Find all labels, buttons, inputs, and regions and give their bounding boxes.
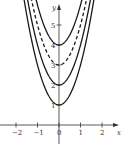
y-tick-label: 4 — [51, 42, 56, 50]
parabola-family-plot: −2−101212345 x y — [0, 0, 124, 144]
ticks: −2−101212345 — [12, 22, 104, 138]
x-axis-label: x — [117, 129, 121, 137]
y-tick-label: 1 — [51, 102, 55, 110]
x-axis-arrow-icon — [113, 123, 119, 127]
y-tick-label: 2 — [51, 82, 55, 90]
x-tick-label: 0 — [57, 129, 61, 137]
y-tick-label: 5 — [51, 22, 55, 30]
y-tick-label: 3 — [51, 62, 55, 70]
x-tick-label: −2 — [12, 129, 22, 137]
x-tick-label: −1 — [34, 129, 44, 137]
y-axis-arrow-icon — [57, 4, 61, 10]
x-tick-label: 1 — [79, 129, 83, 137]
x-tick-label: 2 — [100, 129, 104, 137]
y-axis-label: y — [51, 4, 57, 12]
